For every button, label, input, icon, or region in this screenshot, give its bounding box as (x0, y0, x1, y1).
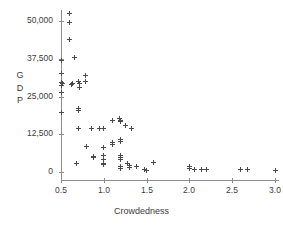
data-point (118, 118, 123, 123)
data-point (144, 168, 149, 173)
y-tick-label: 0 (0, 167, 53, 176)
x-tick-mark (61, 178, 62, 183)
y-tick-label: 25,000 (0, 92, 53, 101)
data-point (245, 167, 250, 172)
x-tick-mark (104, 178, 105, 183)
data-point (97, 126, 102, 131)
y-tick-label: 37,500 (0, 54, 53, 63)
data-point (134, 164, 139, 169)
data-point (72, 55, 77, 60)
x-axis-title: Crowdedness (0, 206, 283, 216)
data-point (101, 162, 106, 167)
y-tick-mark (59, 97, 64, 98)
data-point (70, 81, 75, 86)
data-point (84, 144, 89, 149)
data-point (101, 126, 106, 131)
scatter-plot-chart: GDP Crowdedness 012,50025,00037,50050,00… (0, 0, 283, 227)
x-tick-mark (147, 178, 148, 183)
data-point (69, 82, 74, 87)
data-point (76, 108, 81, 113)
data-point (67, 11, 72, 16)
data-point (204, 167, 209, 172)
x-tick-label: 0.5 (45, 186, 77, 195)
data-point (123, 123, 128, 128)
data-point (199, 167, 204, 172)
data-point (83, 73, 88, 78)
data-point (67, 37, 72, 42)
x-tick-label: 2.0 (173, 186, 205, 195)
data-point (273, 168, 278, 173)
x-axis-line (61, 180, 279, 181)
data-point (101, 153, 106, 158)
data-point (77, 85, 82, 90)
data-point (76, 126, 81, 131)
data-point (110, 142, 115, 147)
data-point (142, 167, 147, 172)
x-tick-label: 1.5 (131, 186, 163, 195)
data-point (118, 139, 123, 144)
x-tick-label: 1.0 (88, 186, 120, 195)
data-point (118, 155, 123, 160)
data-point (67, 20, 72, 25)
y-axis-line (61, 10, 62, 180)
y-tick-mark (59, 59, 64, 60)
data-point (91, 154, 96, 159)
data-point (110, 118, 115, 123)
data-point (74, 161, 79, 166)
data-point (238, 167, 243, 172)
data-point (117, 116, 122, 121)
y-axis-title-char-0: G (14, 69, 26, 82)
y-tick-mark (59, 134, 64, 135)
data-point (151, 160, 156, 165)
data-point (118, 137, 123, 142)
x-tick-mark (189, 178, 190, 183)
x-tick-mark (275, 178, 276, 183)
data-point (101, 157, 106, 162)
data-point (187, 164, 192, 169)
x-tick-mark (232, 178, 233, 183)
y-tick-label: 12,500 (0, 129, 53, 138)
x-tick-label: 2.5 (216, 186, 248, 195)
data-point (118, 166, 123, 171)
data-point (76, 79, 81, 84)
data-point (101, 145, 106, 150)
data-point (110, 140, 115, 145)
data-point (192, 167, 197, 172)
y-tick-label: 50,000 (0, 16, 53, 25)
data-point (125, 161, 130, 166)
data-point (127, 163, 132, 168)
data-point (77, 81, 82, 86)
data-point (127, 165, 132, 170)
data-point (76, 106, 81, 111)
data-point (89, 126, 94, 131)
y-tick-mark (59, 21, 64, 22)
data-point (118, 153, 123, 158)
data-point (91, 155, 96, 160)
data-point (187, 166, 192, 171)
data-point (118, 119, 123, 124)
x-tick-label: 3.0 (259, 186, 283, 195)
data-point (101, 161, 106, 166)
data-point (118, 157, 123, 162)
data-point (118, 164, 123, 169)
data-point (83, 79, 88, 84)
y-tick-mark (59, 172, 64, 173)
data-point (129, 126, 134, 131)
